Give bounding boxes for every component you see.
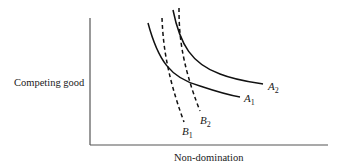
label-a1: A1 [243,92,255,107]
curve-b1 [162,18,184,122]
x-axis-label: Non-domination [174,152,244,163]
curve-a2 [173,10,263,84]
label-b2: B2 [200,114,211,129]
label-b1: B1 [182,125,193,140]
label-a2: A2 [267,80,279,95]
curve-b2 [179,8,200,111]
curve-a1 [148,23,240,97]
y-axis-label: Competing good [14,77,85,88]
diagram-canvas: A2 A1 B2 B1 Competing good Non-dominatio… [0,0,345,167]
